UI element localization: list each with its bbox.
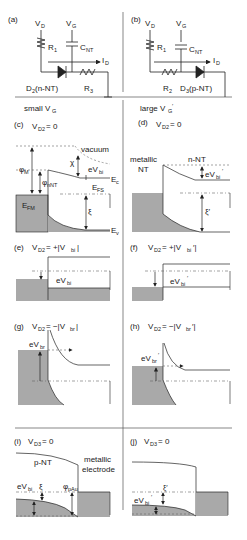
svg-text:nNT: nNT	[47, 182, 58, 188]
svg-text:vacuum: vacuum	[81, 145, 109, 154]
svg-text:(f): (f)	[130, 243, 138, 252]
svg-text:eV: eV	[141, 354, 151, 363]
svg-text:= 0: = 0	[46, 122, 58, 131]
svg-text:′: ′	[222, 168, 224, 174]
svg-text:(g): (g)	[14, 322, 24, 331]
panel-a-label: (a)	[8, 15, 18, 24]
svg-text:br: br	[152, 358, 157, 364]
svg-text:D2: D2	[162, 124, 169, 130]
svg-text:= +|V: = +|V	[162, 243, 182, 252]
svg-text:= 0: = 0	[170, 120, 182, 129]
panel-a-labels: (a) V D V G R 1 C NT I D D 2 (n-NT) R 3	[8, 15, 109, 94]
svg-text:D2: D2	[38, 247, 45, 253]
svg-text:′|: ′|	[192, 322, 196, 331]
panel-g-labels: (g) V D2 = −|V br | eV br	[14, 322, 78, 350]
svg-text:large V: large V	[140, 104, 166, 113]
svg-text:′: ′	[158, 352, 160, 358]
svg-text:M: M	[24, 169, 29, 175]
svg-text:1: 1	[54, 47, 57, 53]
svg-text:χ: χ	[70, 158, 75, 167]
svg-text:bi: bi	[216, 174, 220, 180]
svg-text:= +|V: = +|V	[46, 243, 66, 252]
svg-text:br: br	[40, 344, 45, 350]
svg-text:|: |	[77, 243, 79, 252]
svg-text:G: G	[52, 108, 56, 114]
svg-text:3: 3	[90, 88, 93, 94]
svg-text:NT: NT	[86, 47, 94, 53]
svg-text:|: |	[76, 322, 78, 331]
svg-text:p-NT: p-NT	[34, 458, 52, 467]
svg-text:bi: bi	[181, 281, 185, 287]
svg-text:bi: bi	[28, 486, 32, 492]
svg-text:eV: eV	[88, 165, 98, 174]
panel-j-labels: (j) V D3 = 0 ξ′ eV bi ′	[130, 437, 170, 506]
svg-text:(i): (i)	[14, 437, 21, 446]
svg-text:G: G	[72, 23, 76, 29]
svg-text:NT: NT	[195, 49, 203, 55]
svg-text:electrode: electrode	[82, 465, 115, 474]
svg-text:bi: bi	[67, 280, 71, 286]
svg-text:′: ′	[172, 103, 174, 109]
svg-text:D3: D3	[150, 441, 157, 447]
svg-text:eV: eV	[134, 496, 144, 505]
svg-text:1: 1	[163, 47, 166, 53]
svg-text:D2: D2	[154, 326, 161, 332]
svg-text:(j): (j)	[130, 437, 137, 446]
svg-text:I: I	[213, 56, 215, 65]
svg-text:(d): (d)	[138, 118, 148, 127]
svg-text:D: D	[216, 60, 220, 66]
svg-text:= −|V: = −|V	[46, 322, 66, 331]
svg-text:′: ′	[151, 494, 153, 500]
svg-text:D2: D2	[154, 247, 161, 253]
panel-b-label: (b)	[131, 15, 141, 24]
svg-text:(n-NT): (n-NT)	[35, 84, 58, 93]
svg-text:D2: D2	[38, 326, 45, 332]
svg-text:br: br	[186, 326, 191, 332]
svg-text:bi: bi	[99, 169, 103, 175]
svg-text:bi: bi	[145, 500, 149, 506]
svg-text:2: 2	[169, 88, 172, 94]
svg-text:small V: small V	[24, 104, 51, 113]
svg-text:D: D	[41, 23, 45, 29]
svg-text:metallic: metallic	[130, 155, 157, 164]
figure: (a) V D V G R 1 C NT I D D 2 (n-NT) R 3 …	[0, 0, 247, 540]
svg-text:NT: NT	[138, 165, 149, 174]
column-headers: small V G large V G ′	[24, 103, 174, 114]
svg-text:c: c	[116, 179, 119, 185]
svg-text:ξ′: ξ′	[163, 484, 168, 492]
svg-text:D3: D3	[34, 441, 41, 447]
svg-text:= 0: = 0	[158, 437, 170, 446]
panel-j-band	[132, 462, 228, 516]
svg-text:ξ: ξ	[88, 207, 92, 216]
svg-text:n-NT: n-NT	[188, 155, 206, 164]
svg-text:(e): (e)	[14, 243, 24, 252]
svg-text:FM: FM	[27, 205, 35, 211]
svg-text:(h): (h)	[130, 322, 140, 331]
svg-text:′|: ′|	[193, 243, 197, 252]
svg-text:eV: eV	[29, 340, 39, 349]
svg-text:D: D	[105, 60, 109, 66]
svg-text:(p-NT): (p-NT)	[189, 84, 212, 93]
svg-text:I: I	[102, 56, 104, 65]
svg-text:eV: eV	[17, 482, 27, 491]
svg-text:bi: bi	[71, 247, 75, 253]
svg-text:= 0: = 0	[42, 437, 54, 446]
svg-text:FS: FS	[97, 187, 104, 193]
svg-text:eV: eV	[56, 276, 66, 285]
svg-text:pAu: pAu	[68, 486, 78, 492]
panel-b-labels: (b) V D V G R 1 C NT I D R 2 D 3 (p-NT)	[131, 15, 220, 94]
svg-text:eV: eV	[205, 170, 215, 179]
svg-text:eV: eV	[170, 277, 180, 286]
svg-text:ξ: ξ	[39, 482, 43, 491]
svg-text:G: G	[182, 23, 186, 29]
svg-text:(c): (c)	[14, 120, 24, 129]
panel-h-band	[132, 343, 230, 405]
svg-text:′: ′	[187, 275, 189, 281]
svg-text:metallic: metallic	[84, 455, 111, 464]
panel-i-labels: (i) V D3 = 0 p-NT metallic electrode eV …	[14, 437, 115, 492]
svg-text:ξ′: ξ′	[205, 207, 211, 216]
svg-text:= −|V: = −|V	[162, 322, 182, 331]
svg-text:v: v	[116, 230, 119, 236]
svg-text:D: D	[151, 23, 155, 29]
svg-text:bi: bi	[187, 247, 191, 253]
